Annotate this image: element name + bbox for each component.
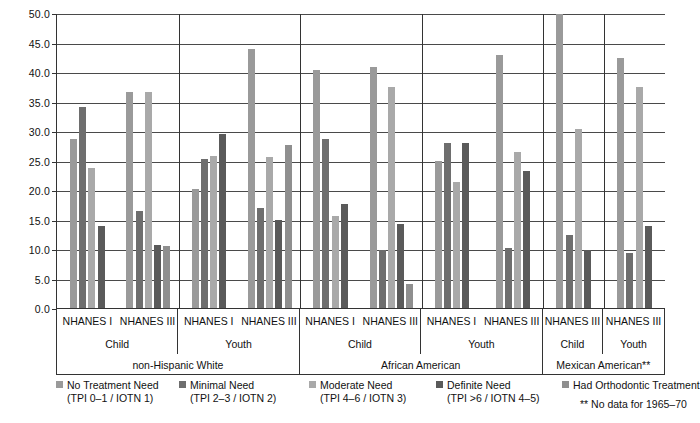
legend-sublabel: (TPI >6 / IOTN 4–5) xyxy=(447,392,540,404)
y-axis-tick-mark xyxy=(52,191,56,192)
y-axis-tick-mark xyxy=(52,103,56,104)
y-axis-tick-mark xyxy=(52,162,56,163)
bar xyxy=(406,284,413,308)
y-axis-tick-label: 25.0 xyxy=(0,156,50,168)
legend-swatch xyxy=(309,381,316,388)
legend-swatch xyxy=(436,381,443,388)
bar xyxy=(453,182,460,308)
bar xyxy=(496,55,503,308)
legend-swatch xyxy=(179,381,186,388)
bar xyxy=(617,58,624,308)
y-axis-tick-label: 5.0 xyxy=(0,274,50,286)
bar xyxy=(210,156,217,308)
bar xyxy=(126,92,133,308)
legend-item[interactable]: Minimal Need(TPI 2–3 / IOTN 2) xyxy=(179,379,276,404)
bar xyxy=(584,250,591,308)
bar xyxy=(88,168,95,308)
legend-item[interactable]: Had Orthodontic Treatment xyxy=(562,379,700,391)
bar xyxy=(341,204,348,308)
bar xyxy=(266,157,273,308)
bar xyxy=(505,248,512,308)
y-axis-tick-label: 30.0 xyxy=(0,126,50,138)
race-row: non-Hispanic WhiteAfrican AmericanMexica… xyxy=(57,354,664,375)
legend: No Treatment Need(TPI 0–1 / IOTN 1)Minim… xyxy=(56,379,675,419)
bar xyxy=(575,129,582,308)
legend-item[interactable]: Moderate Need(TPI 4–6 / IOTN 3) xyxy=(309,379,406,404)
group-separator xyxy=(604,14,605,308)
bar xyxy=(556,14,563,308)
race-label: African American xyxy=(300,354,543,375)
survey-label: NHANES I xyxy=(178,309,239,333)
age-label: Youth xyxy=(178,333,299,354)
bar xyxy=(514,152,521,308)
bar xyxy=(388,87,395,308)
bar xyxy=(70,139,77,308)
bar-group xyxy=(543,14,604,308)
bar-group xyxy=(300,14,361,308)
bar-group xyxy=(361,14,422,308)
survey-row: NHANES INHANES IIINHANES INHANES IIINHAN… xyxy=(57,309,664,333)
bar-group xyxy=(179,14,240,308)
age-label: Youth xyxy=(603,333,664,354)
survey-label: NHANES I xyxy=(421,309,482,333)
y-axis-tick-label: 15.0 xyxy=(0,215,50,227)
y-axis-tick-mark xyxy=(52,14,56,15)
survey-label: NHANES I xyxy=(300,309,361,333)
age-label: Child xyxy=(300,333,421,354)
bar xyxy=(79,107,86,308)
bar xyxy=(636,87,643,308)
bar xyxy=(379,250,386,308)
race-label: Mexican American** xyxy=(543,354,664,375)
bar xyxy=(285,145,292,308)
y-axis-tick-label: 35.0 xyxy=(0,97,50,109)
legend-sublabel: (TPI 0–1 / IOTN 1) xyxy=(67,392,159,404)
group-separator xyxy=(300,14,301,308)
legend-label: No Treatment Need xyxy=(67,379,159,391)
y-axis-tick-label: 0.0 xyxy=(0,303,50,315)
survey-label: NHANES III xyxy=(118,309,179,333)
legend-label: Moderate Need xyxy=(320,379,392,391)
survey-label: NHANES III xyxy=(482,309,543,333)
legend-item[interactable]: No Treatment Need(TPI 0–1 / IOTN 1) xyxy=(56,379,159,404)
category-axis-table: NHANES INHANES IIINHANES INHANES IIINHAN… xyxy=(56,309,665,375)
bar-group xyxy=(118,14,179,308)
bar xyxy=(257,208,264,308)
bar xyxy=(136,211,143,308)
plot-area xyxy=(56,14,665,309)
age-label: Child xyxy=(543,333,604,354)
y-axis-tick-mark xyxy=(52,280,56,281)
bar-group xyxy=(604,14,665,308)
age-label: Youth xyxy=(421,333,542,354)
survey-label: NHANES I xyxy=(57,309,118,333)
y-axis-tick-label: 40.0 xyxy=(0,67,50,79)
y-axis-tick-mark xyxy=(52,221,56,222)
bar xyxy=(332,216,339,308)
y-axis-tick-mark xyxy=(52,73,56,74)
bar xyxy=(444,143,451,308)
bar-group xyxy=(483,14,544,308)
bar xyxy=(370,67,377,308)
legend-label: Had Orthodontic Treatment xyxy=(573,379,700,391)
bar xyxy=(248,49,255,308)
y-axis-tick-mark xyxy=(52,44,56,45)
bar xyxy=(626,253,633,308)
bar-group xyxy=(422,14,483,308)
y-axis-tick-label: 20.0 xyxy=(0,185,50,197)
race-label: non-Hispanic White xyxy=(57,354,300,375)
bar-group xyxy=(57,14,118,308)
survey-label: NHANES III xyxy=(360,309,421,333)
legend-sublabel: (TPI 2–3 / IOTN 2) xyxy=(190,392,276,404)
bar xyxy=(435,161,442,308)
legend-swatch xyxy=(56,381,63,388)
age-row: ChildYouthChildYouthChildYouth xyxy=(57,333,664,354)
bar xyxy=(201,159,208,308)
survey-label: NHANES III xyxy=(603,309,664,333)
legend-label: Definite Need xyxy=(447,379,511,391)
group-separator xyxy=(543,14,544,308)
survey-label: NHANES III xyxy=(543,309,604,333)
y-axis-tick-mark xyxy=(52,250,56,251)
legend-sublabel: (TPI 4–6 / IOTN 3) xyxy=(320,392,406,404)
age-label: Child xyxy=(57,333,178,354)
legend-item[interactable]: Definite Need(TPI >6 / IOTN 4–5) xyxy=(436,379,540,404)
bar xyxy=(462,143,469,308)
